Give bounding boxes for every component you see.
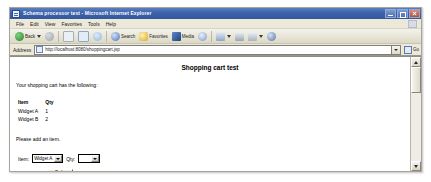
go-arrow-icon — [404, 46, 412, 54]
back-arrow-icon — [15, 32, 24, 41]
vertical-scrollbar[interactable] — [410, 57, 421, 171]
order-form: Item: Widget A Qty: Order — [18, 154, 410, 171]
back-button-label: Back — [25, 34, 35, 39]
refresh-icon — [78, 31, 89, 42]
page-icon — [36, 46, 43, 53]
cell-qty: 2 — [45, 116, 60, 124]
discuss-icon — [267, 32, 276, 41]
chevron-down-icon[interactable] — [37, 35, 41, 38]
stop-button[interactable] — [61, 30, 76, 43]
search-button-label: Search — [121, 34, 135, 39]
table-row: Widget B 2 — [18, 116, 61, 124]
column-header-qty: Qty — [45, 99, 60, 108]
back-button[interactable]: Back — [13, 30, 43, 43]
table-row: Widget A 1 — [18, 108, 61, 116]
qty-select-arrow[interactable] — [91, 155, 99, 162]
toolbar: Back Search Favorites Media — [10, 29, 421, 44]
scroll-down-icon — [414, 165, 418, 168]
window-controls — [385, 9, 420, 18]
discuss-button[interactable] — [265, 30, 278, 43]
ie-document-icon — [12, 10, 20, 18]
table-header-row: Item Qty — [18, 99, 61, 108]
search-button[interactable]: Search — [109, 30, 137, 43]
ie-logo-icon — [408, 20, 417, 28]
menu-item-favorites[interactable]: Favorites — [58, 19, 85, 29]
home-icon — [93, 32, 102, 41]
star-icon — [139, 32, 148, 41]
browser-window: Schema processor test - Microsoft Intern… — [9, 7, 422, 172]
chevron-down-icon[interactable] — [227, 35, 231, 38]
minimize-button[interactable] — [385, 9, 396, 18]
address-label: Address — [13, 47, 31, 53]
history-icon — [198, 32, 207, 41]
address-bar: Address http://localhost:8080/shoppingca… — [10, 44, 421, 56]
menu-item-edit[interactable]: Edit — [27, 19, 42, 29]
title-bar: Schema processor test - Microsoft Intern… — [10, 8, 421, 19]
chevron-down-icon — [93, 158, 97, 160]
menu-item-file[interactable]: File — [13, 19, 27, 29]
scroll-down-button[interactable] — [411, 161, 421, 171]
edit-button[interactable] — [246, 30, 265, 43]
menu-item-tools[interactable]: Tools — [85, 19, 103, 29]
media-icon — [172, 32, 181, 41]
toolbar-separator — [106, 31, 107, 42]
address-input[interactable]: http://localhost:8080/shoppingcart.jsp — [34, 45, 391, 55]
favorites-button[interactable]: Favorites — [137, 30, 170, 43]
toolbar-separator — [58, 31, 59, 42]
window-title: Schema processor test - Microsoft Intern… — [23, 8, 385, 19]
chevron-down-icon[interactable] — [259, 35, 263, 38]
media-button-label: Media — [182, 34, 194, 39]
chevron-down-icon — [394, 49, 398, 51]
cell-item: Widget A — [18, 108, 45, 116]
scrollbar-thumb[interactable] — [411, 67, 421, 93]
menu-item-help[interactable]: Help — [103, 19, 119, 29]
favorites-button-label: Favorites — [149, 34, 168, 39]
stop-icon — [63, 31, 74, 42]
page-title: Shopping cart test — [10, 64, 410, 71]
history-button[interactable] — [196, 30, 209, 43]
qty-field-label: Qty: — [66, 156, 75, 162]
order-form-row: Item: Widget A Qty: — [18, 154, 410, 163]
address-dropdown-button[interactable] — [391, 45, 401, 55]
item-field-label: Item: — [18, 156, 29, 162]
close-button[interactable] — [409, 9, 420, 18]
home-button[interactable] — [91, 30, 104, 43]
chevron-down-icon — [56, 158, 60, 160]
forward-button[interactable] — [43, 30, 56, 43]
cart-table: Item Qty Widget A 1 Widget B 2 — [18, 99, 61, 124]
scroll-up-button[interactable] — [411, 57, 421, 67]
item-select[interactable]: Widget A — [32, 154, 63, 163]
media-button[interactable]: Media — [170, 30, 196, 43]
mail-icon — [216, 32, 225, 41]
cart-intro-text: Your shopping cart has the following: — [16, 81, 410, 89]
item-select-value: Widget A — [34, 156, 54, 161]
order-button[interactable]: Order — [48, 169, 73, 171]
print-button[interactable] — [233, 30, 246, 43]
scrollbar-track[interactable] — [411, 67, 421, 161]
menu-item-view[interactable]: View — [42, 19, 59, 29]
search-icon — [111, 32, 120, 41]
scroll-up-icon — [414, 61, 418, 64]
go-button-label: Go — [413, 47, 419, 52]
item-select-arrow[interactable] — [54, 155, 62, 162]
toolbar-separator — [211, 31, 212, 42]
cell-qty: 1 — [45, 108, 60, 116]
go-button[interactable]: Go — [404, 46, 419, 54]
page-viewport: Shopping cart test Your shopping cart ha… — [10, 56, 421, 171]
maximize-button[interactable] — [397, 9, 408, 18]
address-url-text: http://localhost:8080/shoppingcart.jsp — [45, 47, 119, 52]
mail-button[interactable] — [214, 30, 233, 43]
refresh-button[interactable] — [76, 30, 91, 43]
page-content: Shopping cart test Your shopping cart ha… — [10, 57, 410, 171]
column-header-item: Item — [18, 99, 45, 108]
forward-arrow-icon — [45, 32, 54, 41]
qty-select[interactable] — [78, 154, 100, 163]
edit-icon — [248, 32, 257, 41]
cell-item: Widget B — [18, 116, 45, 124]
menu-bar: File Edit View Favorites Tools Help — [10, 19, 421, 29]
add-item-prompt: Please add an item. — [16, 135, 410, 143]
print-icon — [235, 32, 244, 41]
